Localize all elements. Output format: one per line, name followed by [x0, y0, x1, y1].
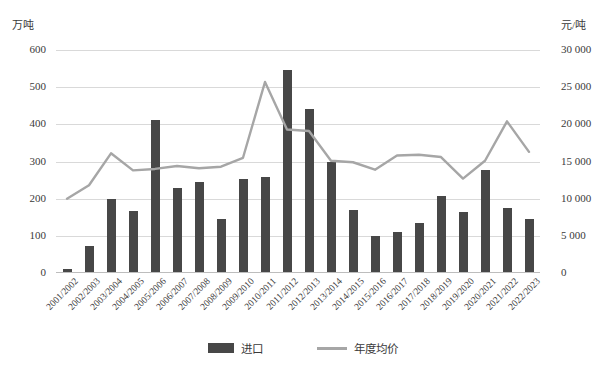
legend-item[interactable]: 年度均价 — [317, 340, 398, 356]
legend-line-swatch-icon — [317, 347, 347, 350]
line-path — [67, 82, 529, 199]
line-series-年度均价 — [56, 50, 540, 273]
right-axis-tick-label: 10 000 — [561, 192, 591, 204]
plot-area — [56, 50, 540, 273]
right-axis-tick-label: 25 000 — [561, 80, 591, 92]
x-axis-labels: 2001/20022002/20032003/20042004/20052005… — [56, 276, 540, 336]
axis-baseline — [56, 272, 540, 273]
chart-container: 万吨 元/吨 6005004003002001000 30 00025 0002… — [0, 0, 606, 378]
right-axis-tick-label: 5 000 — [561, 229, 586, 241]
legend-label: 进口 — [241, 340, 263, 356]
legend-label: 年度均价 — [354, 340, 398, 356]
right-axis-tick-label: 30 000 — [561, 43, 591, 55]
legend-bar-swatch-icon — [208, 343, 234, 353]
right-axis-tick-label: 15 000 — [561, 155, 591, 167]
chart-legend: 进口年度均价 — [0, 340, 606, 356]
right-axis-tick-label: 0 — [561, 266, 567, 278]
legend-item[interactable]: 进口 — [208, 340, 263, 356]
right-axis-tick-label: 20 000 — [561, 117, 591, 129]
